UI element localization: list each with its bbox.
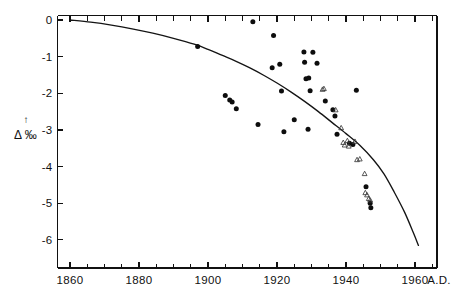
data-point-circle	[195, 44, 200, 49]
y-axis-label: Δ ‰	[14, 128, 37, 142]
tick-labels: 186018801900192019401960A.D.0-1-2-3-4-5-…	[14, 14, 451, 286]
y-tick-label: -2	[42, 87, 53, 99]
data-point-circle	[332, 114, 337, 119]
data-point-circle	[315, 61, 320, 66]
data-point-circle	[308, 88, 313, 93]
y-tick-label: -6	[42, 234, 53, 246]
data-point-circle	[270, 65, 275, 70]
x-tick-label: 1860	[57, 274, 84, 286]
data-point-circle	[277, 62, 282, 67]
plot-ticks	[58, 16, 433, 269]
scatter-plot-svg: 186018801900192019401960A.D.0-1-2-3-4-5-…	[0, 0, 463, 301]
data-point-circle	[368, 205, 373, 210]
plot-axes	[58, 16, 438, 269]
data-point-circle	[301, 49, 306, 54]
data-point-circle	[306, 75, 311, 80]
y-tick-label: -3	[42, 124, 53, 136]
data-point-circle	[306, 127, 311, 132]
data-point-circle	[279, 89, 284, 94]
data-point-circle	[250, 19, 255, 24]
series-filled-circles	[195, 19, 373, 210]
data-point-circle	[281, 129, 286, 134]
y-tick-label: -1	[42, 51, 53, 63]
y-axis-arrow-icon: ↑	[24, 114, 29, 125]
y-tick-label: 0	[46, 14, 53, 26]
x-tick-label: 1900	[195, 274, 222, 286]
data-point-circle	[292, 117, 297, 122]
trendline-curve	[70, 20, 418, 245]
data-point-circle	[335, 132, 340, 137]
data-point-circle	[302, 60, 307, 65]
y-tick-label: -4	[42, 161, 53, 173]
data-point-triangle	[362, 171, 367, 175]
x-tick-label: 1920	[264, 274, 291, 286]
data-point-circle	[271, 33, 276, 38]
data-point-circle	[323, 99, 328, 104]
x-tick-label: 1940	[333, 274, 360, 286]
data-point-triangle	[357, 157, 362, 161]
trendline-path	[70, 20, 418, 245]
series-open-triangles	[320, 86, 372, 202]
data-point-circle	[256, 122, 261, 127]
data-point-circle	[234, 106, 239, 111]
y-tick-label: -5	[42, 197, 53, 209]
data-point-circle	[230, 100, 235, 105]
data-point-circle	[223, 93, 228, 98]
x-tick-label: 1880	[126, 274, 153, 286]
data-point-circle	[364, 184, 369, 189]
chart-figure: 186018801900192019401960A.D.0-1-2-3-4-5-…	[0, 0, 463, 301]
x-axis-caption: A.D.	[427, 274, 451, 286]
x-tick-label: 1960	[402, 274, 429, 286]
data-point-circle	[354, 88, 359, 93]
data-point-circle	[310, 50, 315, 55]
data-points	[195, 19, 373, 210]
